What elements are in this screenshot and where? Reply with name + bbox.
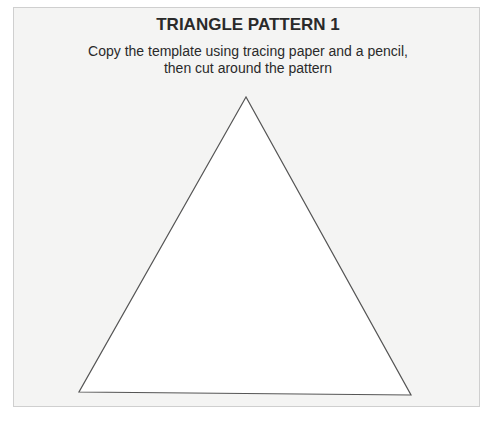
triangle-template	[0, 0, 496, 423]
triangle-shape	[79, 97, 411, 395]
